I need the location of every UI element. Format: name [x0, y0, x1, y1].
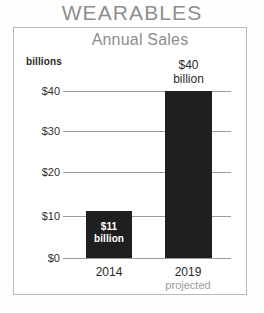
chart-title: Annual Sales [40, 31, 240, 49]
y-axis-units-label: billions [26, 56, 62, 67]
chart-supertitle: WEARABLES [0, 1, 264, 25]
chart-frame [13, 27, 247, 295]
